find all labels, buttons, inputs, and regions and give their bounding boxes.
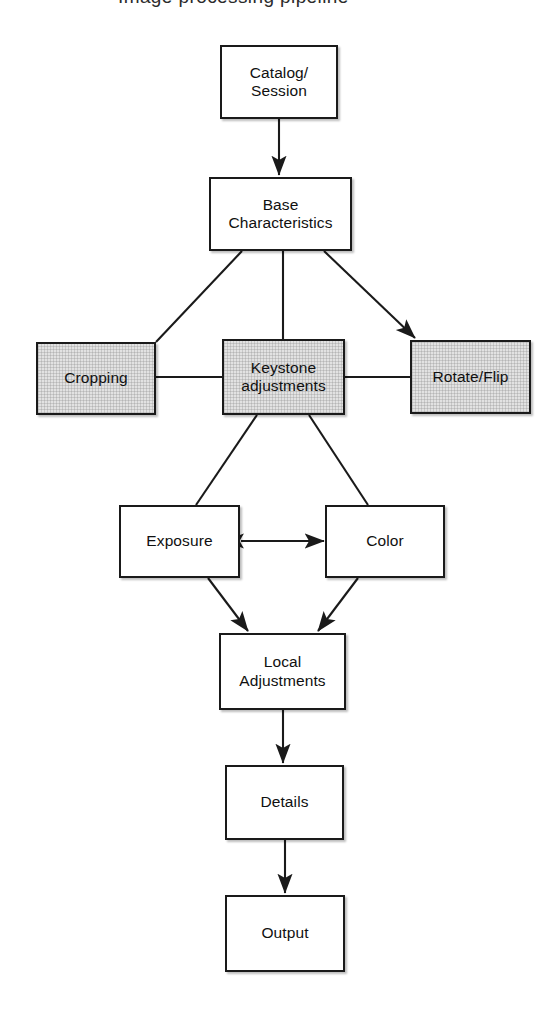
node-local[interactable]: Local Adjustments [219,633,346,710]
cropped-title-text: Image processing pipeline [118,0,349,7]
node-local-label: Local Adjustments [235,653,329,690]
node-catalog[interactable]: Catalog/ Session [220,45,338,119]
node-catalog-label: Catalog/ Session [246,64,313,101]
node-keystone[interactable]: Keystone adjustments [222,339,345,415]
node-exposure-label: Exposure [142,532,216,550]
edge-exposure-to-local [208,578,248,631]
edge-keystone-to-exposure [196,415,257,505]
flowchart-canvas: Image processing pipeline Catalog/ Sessi… [0,0,556,1010]
edge-base-to-rotate [324,251,415,338]
flowchart-edges [0,0,556,1010]
edge-base-to-cropping [156,251,242,342]
node-rotate-label: Rotate/Flip [428,368,512,386]
node-color[interactable]: Color [325,505,445,578]
node-keystone-label: Keystone adjustments [237,359,330,396]
edge-color-to-local [318,578,358,631]
node-base-label: Base Characteristics [225,196,337,233]
node-rotate[interactable]: Rotate/Flip [410,340,531,414]
node-cropping[interactable]: Cropping [36,342,156,415]
node-exposure[interactable]: Exposure [119,505,240,578]
cropped-title-fragment: Image processing pipeline [0,0,556,7]
edge-keystone-to-color [309,415,368,505]
node-output[interactable]: Output [225,895,345,972]
node-output-label: Output [257,924,312,942]
node-details-label: Details [256,793,312,811]
node-cropping-label: Cropping [60,369,132,387]
node-details[interactable]: Details [225,765,344,840]
node-color-label: Color [362,532,408,550]
node-base[interactable]: Base Characteristics [209,177,352,251]
